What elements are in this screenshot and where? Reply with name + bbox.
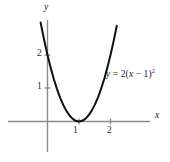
plot-canvas bbox=[0, 0, 170, 162]
y-axis-label: y bbox=[44, 3, 48, 13]
equation-minus-term: − 1) bbox=[133, 69, 152, 79]
parabola-figure: y x 2 1 1 2 y = 2(x − 1)2 bbox=[0, 0, 170, 162]
x-axis-label: x bbox=[155, 111, 159, 121]
equation-coefficient: 2( bbox=[121, 69, 129, 79]
x-tick-label-1: 1 bbox=[73, 126, 78, 136]
equation-equals: = bbox=[110, 69, 120, 79]
x-tick-label-2: 2 bbox=[107, 126, 112, 136]
equation-annotation: y = 2(x − 1)2 bbox=[106, 68, 155, 80]
equation-exponent: 2 bbox=[152, 67, 155, 74]
y-tick-label-1: 1 bbox=[37, 82, 42, 92]
y-tick-label-2: 2 bbox=[37, 49, 42, 59]
